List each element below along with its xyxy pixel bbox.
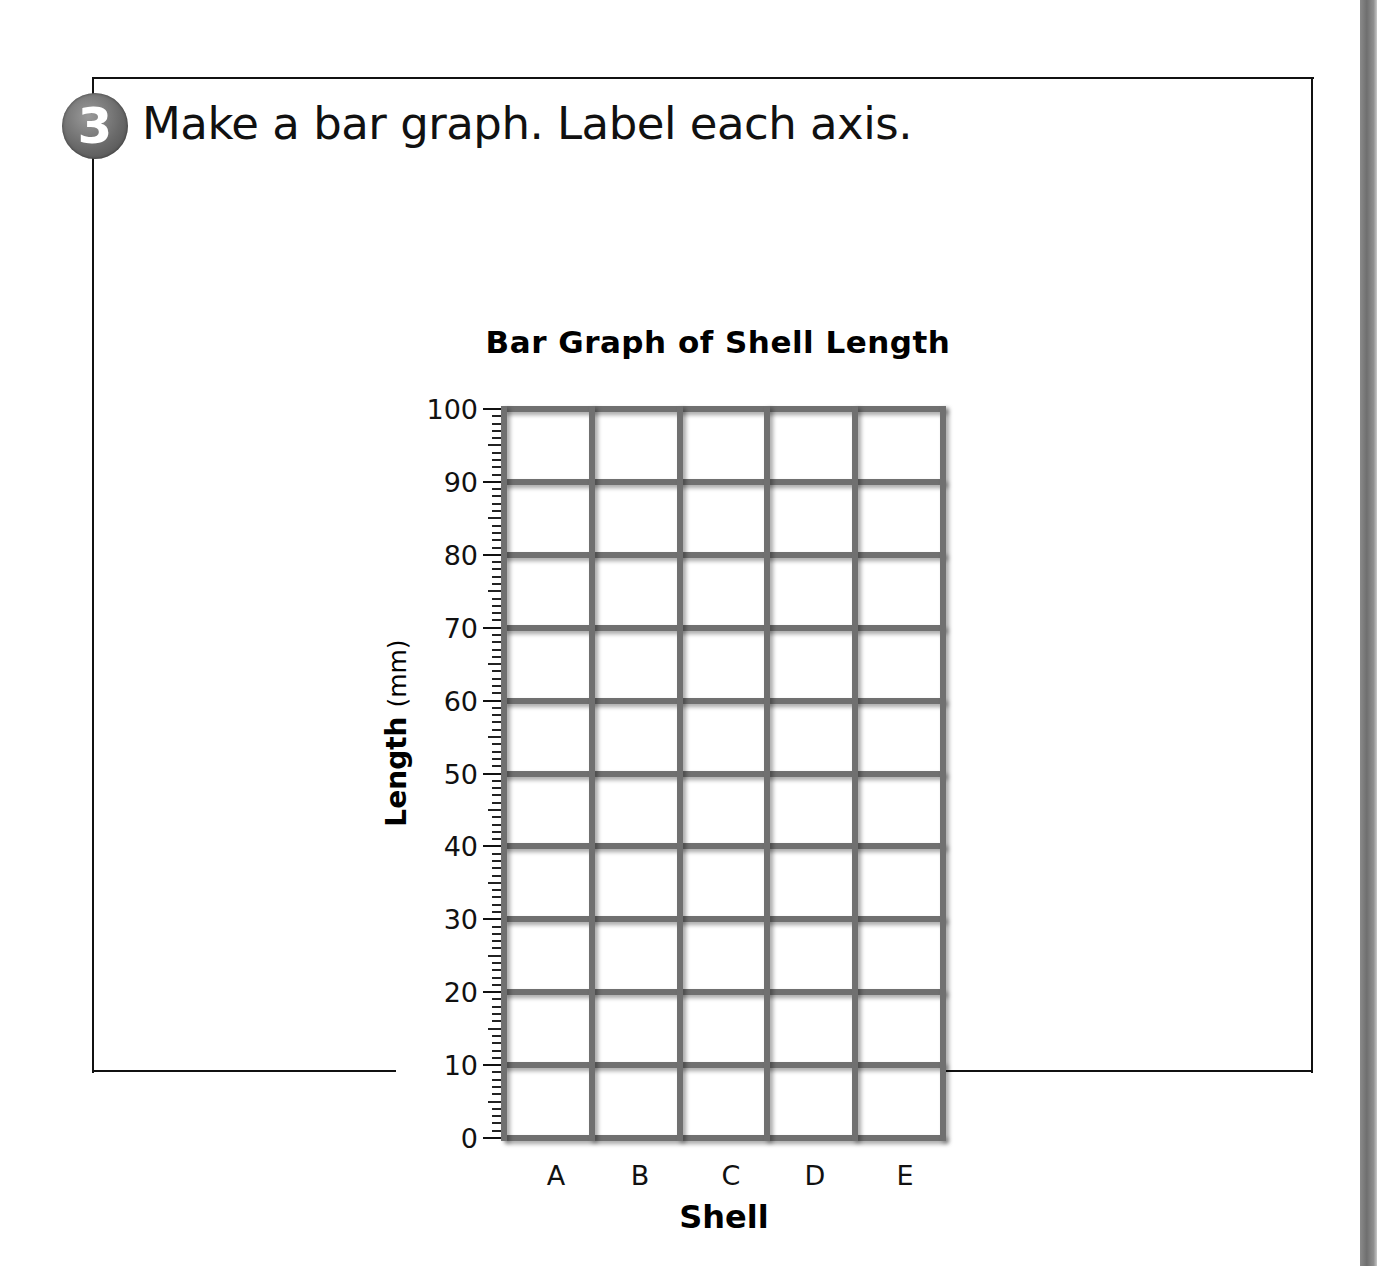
problem-frame-right xyxy=(1311,77,1313,1073)
y-tick-label: 0 xyxy=(408,1125,478,1152)
y-tick-label: 20 xyxy=(408,979,478,1006)
chart-title: Bar Graph of Shell Length xyxy=(418,324,1018,360)
grid-line-horizontal xyxy=(504,698,946,704)
y-axis-label: Length (mm) xyxy=(380,639,413,826)
problem-frame-top xyxy=(93,77,1314,79)
grid-line-horizontal xyxy=(504,1135,946,1141)
grid-line-horizontal xyxy=(504,406,946,412)
grid-line-vertical xyxy=(677,406,683,1141)
grid-line-vertical xyxy=(501,406,507,1141)
y-tick-label: 10 xyxy=(408,1052,478,1079)
grid-line-horizontal xyxy=(504,771,946,777)
page-edge-bar xyxy=(1360,0,1377,1266)
problem-number-badge: 3 xyxy=(62,93,128,159)
grid-line-vertical xyxy=(852,406,858,1141)
x-category-label: D xyxy=(795,1160,835,1191)
grid-line-horizontal xyxy=(504,479,946,485)
grid-line-vertical xyxy=(940,406,946,1141)
y-tick-label: 80 xyxy=(408,541,478,568)
y-tick-label: 70 xyxy=(408,614,478,641)
x-axis-label: Shell xyxy=(679,1198,768,1236)
problem-frame-bottom-right xyxy=(945,1070,1313,1072)
problem-frame-left xyxy=(92,77,94,1073)
x-category-label: B xyxy=(620,1160,660,1191)
grid-line-vertical xyxy=(764,406,770,1141)
x-category-label: E xyxy=(885,1160,925,1191)
y-tick-label: 50 xyxy=(408,760,478,787)
grid-line-horizontal xyxy=(504,625,946,631)
y-tick-label: 60 xyxy=(408,687,478,714)
y-tick-label: 40 xyxy=(408,833,478,860)
grid-line-horizontal xyxy=(504,552,946,558)
problem-frame-bottom-left xyxy=(92,1070,396,1072)
y-tick-label: 100 xyxy=(408,396,478,423)
y-tick-label: 90 xyxy=(408,468,478,495)
y-tick-label: 30 xyxy=(408,906,478,933)
grid-line-vertical xyxy=(589,406,595,1141)
grid-line-horizontal xyxy=(504,1062,946,1068)
x-category-label: A xyxy=(536,1160,576,1191)
x-category-label: C xyxy=(711,1160,751,1191)
problem-instruction: Make a bar graph. Label each axis. xyxy=(142,97,912,150)
grid-line-horizontal xyxy=(504,916,946,922)
grid-line-horizontal xyxy=(504,989,946,995)
grid-line-horizontal xyxy=(504,843,946,849)
